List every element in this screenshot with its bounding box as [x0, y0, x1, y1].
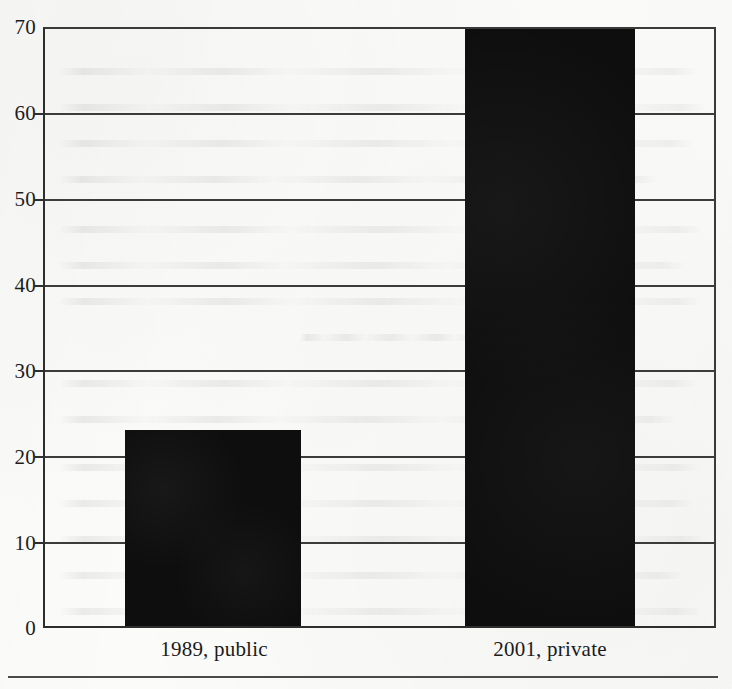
- y-tick-label-70: 70: [2, 17, 36, 38]
- y-tick-label-0: 0: [2, 618, 36, 639]
- plot-area: [43, 27, 716, 628]
- y-tick-mark-50: [34, 199, 43, 201]
- y-tick-label-40: 40: [2, 275, 36, 296]
- bar-1989-public: [125, 430, 301, 626]
- y-tick-mark-40: [34, 285, 43, 287]
- y-tick-label-10: 10: [2, 533, 36, 554]
- y-tick-label-30: 30: [2, 361, 36, 382]
- bar-2001-private: [465, 29, 635, 626]
- y-axis: 70 60 50 40 30 20 10 0: [0, 0, 36, 689]
- bottom-rule: [8, 676, 718, 678]
- x-tick-label-2001-private: 2001, private: [464, 637, 636, 661]
- bar-chart: 70 60 50 40 30 20 10 0 1989, public 2001…: [0, 0, 732, 689]
- y-tick-mark-10: [34, 542, 43, 544]
- y-tick-mark-60: [34, 113, 43, 115]
- y-tick-mark-30: [34, 370, 43, 372]
- y-tick-label-60: 60: [2, 103, 36, 124]
- y-tick-label-50: 50: [2, 189, 36, 210]
- y-tick-label-20: 20: [2, 447, 36, 468]
- y-tick-mark-20: [34, 456, 43, 458]
- x-tick-label-1989-public: 1989, public: [125, 637, 303, 661]
